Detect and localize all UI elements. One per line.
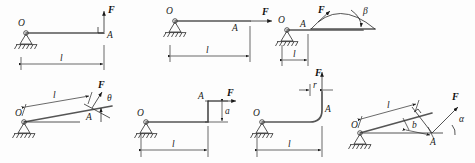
panel-g-label-alpha: α [459,114,465,124]
panel-a-label-F: F [107,4,115,15]
panel-d-label-theta: θ [107,93,112,103]
panel-b: O A F l [164,6,273,62]
panel-d-force-arrow [92,92,102,108]
panel-e-label-A: A [197,91,204,101]
panel-c-label-F: F [317,4,325,15]
panel-b-label-l: l [206,45,209,55]
panel-c-label-O: O [278,15,285,25]
panel-g: O A F α b l [349,91,466,149]
diagram-canvas: O A F l O [0,0,475,163]
panel-b-label-A: A [231,23,238,33]
panel-e-label-l: l [172,139,175,149]
panel-f-beam [262,92,322,122]
panel-e-label-F: F [226,87,234,98]
panel-e: O A F a l [135,87,237,157]
panel-c-label-A: A [299,19,306,29]
panel-c-label-l: l [293,49,296,59]
panel-g-label-F: F [451,91,459,102]
panel-g-label-l: l [387,100,390,110]
panel-g-label-A: A [429,137,436,147]
panel-a-right-angle-mark [98,27,104,33]
panel-g-alpha-arc [452,125,455,135]
panel-f: O A F r l [251,67,334,157]
panel-c-beta-arc [351,10,361,27]
panel-d-beam [24,106,112,122]
panel-c: A F β O l [276,4,376,66]
panel-g-label-b: b [412,120,417,130]
panel-d-label-O: O [15,108,22,118]
panel-f-label-O: O [253,108,260,118]
panel-a-label-A: A [106,30,113,40]
panel-d: A F θ O l [13,79,113,138]
panel-e-label-a: a [225,106,230,116]
panel-c-label-beta: β [362,6,368,16]
panel-a: O A F l [15,4,116,70]
panel-e-label-O: O [137,108,144,118]
statics-diagram-svg: O A F l O [0,0,475,163]
panel-a-label-O: O [18,18,25,28]
panel-f-label-A: A [324,104,331,114]
panel-b-dimension [170,26,250,62]
panel-d-label-A: A [85,112,92,122]
panel-a-label-l: l [60,53,63,63]
panel-b-label-F: F [261,6,269,17]
panel-f-label-r: r [313,80,317,90]
panel-d-label-F: F [97,79,105,90]
panel-b-label-O: O [166,6,173,16]
panel-f-label-F: F [314,67,322,78]
panel-g-dimension-b [403,118,434,139]
panel-d-label-l: l [53,90,56,100]
panel-e-beam [146,101,208,122]
panel-f-label-l: l [288,139,291,149]
panel-g-label-O: O [351,120,358,130]
